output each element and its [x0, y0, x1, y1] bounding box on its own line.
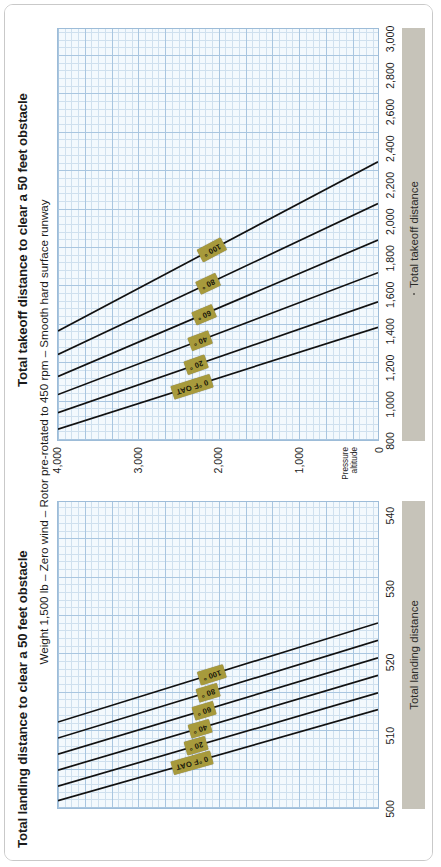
takeoff-x-tick: 2,000	[384, 208, 396, 235]
takeoff-x-tick: 2,600	[384, 99, 396, 126]
performance-chart-sheet: Total landing distance to clear a 50 fee…	[4, 4, 433, 861]
scanned-page-card: Total landing distance to clear a 50 fee…	[4, 4, 433, 861]
landing-x-tick: 520	[384, 654, 396, 672]
takeoff-x-tick: 1,200	[384, 355, 396, 382]
landing-x-tick: 500	[384, 800, 396, 818]
pressure-altitude-tick: 4,000	[51, 447, 63, 487]
oat-curve	[58, 302, 378, 413]
pa-line1: Pressure	[341, 447, 350, 480]
pressure-altitude-tick: 2,000	[212, 447, 224, 487]
takeoff-x-tick: 2,400	[384, 135, 396, 162]
pressure-altitude-tick: 1,000	[293, 447, 305, 487]
takeoff-x-tick: 800	[384, 432, 396, 450]
pressure-altitude-tick: 0	[373, 447, 385, 487]
scan-speck	[413, 293, 415, 295]
takeoff-x-tick: 2,200	[384, 172, 396, 199]
landing-curves	[58, 502, 378, 808]
landing-x-axis-title-bar: Total landing distance	[402, 501, 425, 809]
oat-curve	[58, 327, 378, 429]
pressure-altitude-tick: 3,000	[132, 447, 144, 487]
oat-curve	[58, 273, 378, 395]
takeoff-x-axis-title: Total takeoff distance	[408, 181, 420, 288]
takeoff-x-tick: 1,000	[384, 391, 396, 418]
landing-x-tick: 540	[384, 507, 396, 525]
pa-line2: altitude	[350, 447, 359, 473]
oat-curve	[58, 240, 378, 376]
takeoff-x-axis-title-bar: Total takeoff distance	[402, 28, 425, 441]
landing-x-tick: 510	[384, 727, 396, 745]
takeoff-x-tick: 1,600	[384, 282, 396, 309]
landing-plot-area	[57, 501, 379, 809]
takeoff-x-tick: 1,400	[384, 318, 396, 345]
takeoff-x-tick: 2,800	[384, 62, 396, 89]
shared-conditions-subtitle: Weight 1,500 lb – Zero wind – Rotor pre-…	[37, 16, 50, 848]
pressure-altitude-axis-caption: Pressurealtitude	[342, 447, 360, 493]
takeoff-x-tick: 3,000	[384, 26, 396, 53]
takeoff-curves	[58, 29, 378, 440]
landing-chart-title: Total landing distance to clear a 50 fee…	[15, 551, 30, 848]
takeoff-plot-area	[57, 28, 379, 441]
landing-x-tick: 530	[384, 580, 396, 598]
takeoff-x-tick: 1,800	[384, 245, 396, 272]
takeoff-chart-title: Total takeoff distance to clear a 50 fee…	[15, 93, 30, 387]
landing-x-axis-title: Total landing distance	[408, 600, 420, 710]
